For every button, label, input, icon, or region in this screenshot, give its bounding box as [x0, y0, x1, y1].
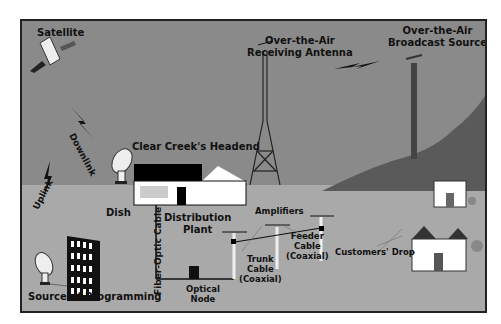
hill — [322, 96, 485, 191]
broadcast-tower-icon — [406, 55, 422, 159]
customers-drop-label: Customers' Drop — [335, 247, 415, 257]
headend-building-icon — [134, 164, 248, 205]
amplifier-icon — [231, 239, 236, 244]
ota-bolt-icon — [334, 61, 380, 69]
satellite-label: Satellite — [37, 27, 84, 39]
amplifiers-label: Amplifiers — [255, 206, 304, 216]
source-dish-icon — [32, 250, 67, 286]
satellite-icon — [30, 37, 76, 73]
optical-node-label: Optical Node — [186, 284, 220, 304]
distribution-plant-label: Distribution Plant — [164, 212, 231, 236]
source-of-programming-label: Source of Programming — [28, 291, 162, 303]
trunk-cable-label: Trunk Cable (Coaxial) — [239, 254, 282, 284]
ota-antenna-label: Over-the-Air Receiving Antenna — [247, 35, 353, 59]
dish-label: Dish — [106, 207, 131, 219]
optical-node-icon — [189, 266, 199, 279]
fiber-optic-label: Fiber-Optic Cable — [152, 207, 164, 295]
ota-source-label: Over-the-Air Broadcast Source — [388, 25, 487, 49]
receiving-antenna-tower-icon — [250, 41, 280, 185]
headend-label: Clear Creek's Headend — [132, 141, 260, 153]
diagram-frame: Satellite Downlink Uplink Over-the-Air R… — [20, 19, 487, 313]
feeder-cable-label: Feeder Cable (Coaxial) — [286, 231, 329, 261]
customer-houses-icon — [412, 226, 483, 271]
